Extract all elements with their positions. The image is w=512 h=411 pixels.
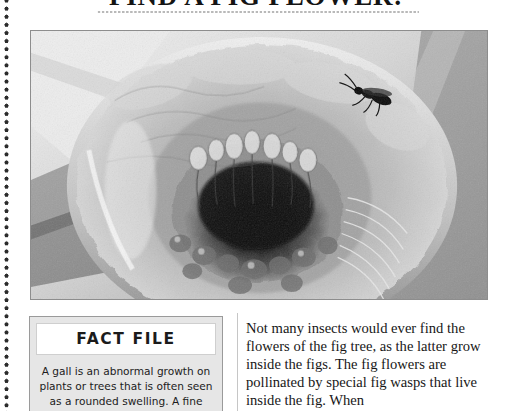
fact-file-header: FACT FILE bbox=[36, 323, 216, 355]
fig-cross-section-photograph bbox=[30, 30, 488, 300]
page-canvas: FIND A FIG FLOWER! bbox=[0, 0, 512, 411]
fact-file-body-text: A gall is an abnormal growth on plants o… bbox=[36, 364, 216, 410]
horizontal-dotted-rule bbox=[97, 10, 419, 14]
fact-file-title: FACT FILE bbox=[76, 330, 175, 348]
column-divider bbox=[237, 313, 238, 411]
vertical-dotted-rule bbox=[4, 0, 9, 411]
page-title: FIND A FIG FLOWER! bbox=[0, 0, 512, 10]
fig-photo-artwork bbox=[31, 31, 487, 299]
article-body-text: Not many insects would ever find the flo… bbox=[246, 319, 504, 409]
fact-file-panel: FACT FILE A gall is an abnormal growth o… bbox=[29, 316, 223, 411]
